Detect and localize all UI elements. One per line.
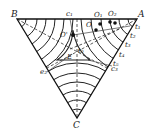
- label-t2: t₂: [130, 33, 136, 40]
- point-o-prime: [71, 33, 75, 37]
- label-c1: c₁: [66, 11, 73, 18]
- point-o2: [108, 20, 112, 24]
- label-t3: t₃: [125, 42, 131, 49]
- label-vertex-b: B: [11, 10, 18, 19]
- ternary-diagram: [0, 0, 155, 139]
- label-t4: t₄: [119, 52, 125, 59]
- label-o: O: [86, 22, 92, 29]
- label-c3: c₃: [111, 66, 118, 73]
- label-o-prime: O': [60, 32, 68, 39]
- label-vertex-c: C: [73, 121, 80, 130]
- dashed-medians: [17, 19, 137, 118]
- point-o: [94, 28, 98, 32]
- point-o1: [98, 22, 102, 26]
- main-triangle: [17, 19, 137, 118]
- point-o2b: [113, 21, 117, 25]
- label-e2: e₂: [40, 69, 47, 76]
- label-t0: t₀: [78, 48, 84, 55]
- label-o1: O₁: [94, 12, 103, 19]
- label-vertex-a: A: [138, 10, 145, 19]
- label-t1: t₁: [135, 24, 141, 31]
- label-o2: O₂: [108, 11, 117, 18]
- label-e: E: [67, 54, 72, 61]
